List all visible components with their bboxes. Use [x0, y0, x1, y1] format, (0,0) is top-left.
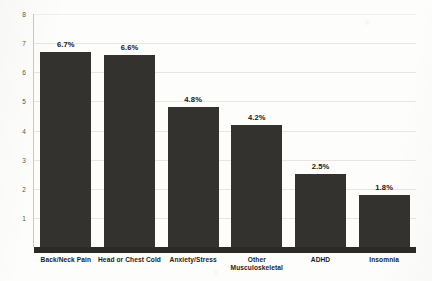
- x-axis-baseline: [34, 247, 416, 253]
- y-axis-tick-label: 2: [0, 185, 26, 192]
- plot-area: [34, 14, 416, 247]
- x-axis-category-label: Other Musculoskeletal: [231, 256, 283, 272]
- y-axis-tick-label: 4: [0, 127, 26, 134]
- bar-value-label: 4.8%: [184, 95, 202, 104]
- x-axis-category-label: Anxiety/Stress: [170, 256, 217, 264]
- y-axis-tick-label: 1: [0, 214, 26, 221]
- gridline-3: [34, 160, 416, 161]
- x-axis-category-label: Back/Neck Pain: [41, 256, 92, 264]
- y-axis-tick-label: 3: [0, 156, 26, 163]
- bar-value-label: 6.6%: [121, 43, 139, 52]
- bar-value-label: 2.5%: [312, 162, 330, 171]
- bar: [231, 125, 282, 247]
- bar-value-label: 4.2%: [248, 113, 266, 122]
- bar-value-label: 1.8%: [375, 183, 393, 192]
- gridline-2: [34, 189, 416, 190]
- bar-value-label: 6.7%: [57, 40, 75, 49]
- bar-chart: 876543216.7%Back/Neck Pain6.6%Head or Ch…: [0, 0, 432, 281]
- y-axis-tick-label: 7: [0, 40, 26, 47]
- bar: [104, 55, 155, 247]
- y-axis-tick-label: 8: [0, 11, 26, 18]
- gridline-8: [34, 14, 416, 15]
- y-axis-tick-label: 6: [0, 69, 26, 76]
- gridline-6: [34, 72, 416, 73]
- gridline-4: [34, 131, 416, 132]
- y-axis-tick-label: 5: [0, 98, 26, 105]
- bar: [359, 195, 410, 247]
- x-axis-category-label: ADHD: [311, 256, 330, 264]
- bar: [168, 107, 219, 247]
- bar: [295, 174, 346, 247]
- gridline-7: [34, 43, 416, 44]
- gridline-5: [34, 101, 416, 102]
- bar: [40, 52, 91, 247]
- x-axis-category-label: Insomnia: [369, 256, 399, 264]
- x-axis-category-label: Head or Chest Cold: [98, 256, 161, 264]
